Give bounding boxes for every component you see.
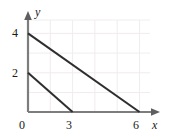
y-tick-label-2: 2 [12, 67, 18, 79]
graph-figure: 4 2 0 3 6 y x [0, 0, 173, 140]
grid-lines [28, 20, 150, 112]
y-tick-label-4: 4 [12, 27, 18, 39]
x-axis [28, 108, 160, 116]
x-tick-label-6: 6 [133, 119, 139, 131]
x-tick-label-0: 0 [19, 119, 25, 131]
y-axis-label: y [35, 6, 40, 18]
x-axis-label: x [152, 119, 157, 131]
arrow-right-icon [151, 108, 160, 116]
arrow-up-icon [24, 11, 32, 20]
coordinate-plot [0, 0, 173, 140]
x-tick-label-3: 3 [66, 119, 72, 131]
y-axis [24, 11, 32, 112]
